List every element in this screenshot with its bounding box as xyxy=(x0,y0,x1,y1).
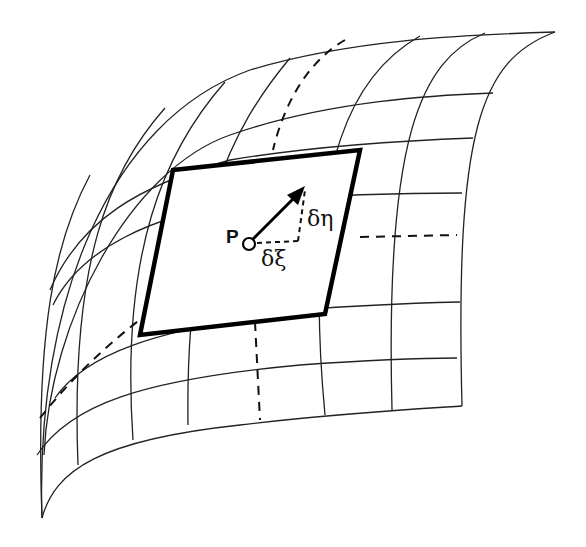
surface-diagram: P δη δξ xyxy=(0,0,586,547)
point-p-label: P xyxy=(226,226,239,247)
diagram-canvas: P δη δξ xyxy=(0,0,586,547)
delta-xi-label: δξ xyxy=(261,246,286,271)
dashed-eta-curve xyxy=(273,40,345,150)
surface-bottom-edge xyxy=(42,406,462,518)
point-p-marker xyxy=(243,238,255,250)
surface-left-edge xyxy=(41,175,90,518)
surface-right-edge xyxy=(461,32,555,406)
delta-eta-label: δη xyxy=(307,206,333,231)
